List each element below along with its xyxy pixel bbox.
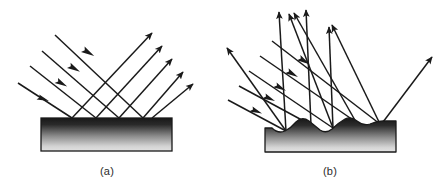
outgoing-ray	[119, 59, 172, 118]
reflection-diagram-svg: (a)	[0, 0, 448, 187]
reflection-figure: (a)	[0, 0, 448, 187]
outgoing-ray	[143, 72, 183, 118]
arrowhead-icon	[285, 68, 298, 77]
panel-b-group: (b)	[227, 10, 432, 177]
outgoing-ray	[72, 33, 152, 118]
panel-a-incoming-rays	[18, 35, 143, 118]
scattered-ray	[383, 57, 432, 122]
panel-a-group: (a)	[18, 33, 193, 177]
incoming-ray	[228, 100, 286, 131]
panel-a-caption: (a)	[100, 165, 114, 177]
arrowhead-icon	[67, 63, 80, 72]
incoming-ray	[249, 71, 333, 128]
smooth-surface-slab	[41, 118, 172, 151]
arrowhead-icon	[55, 78, 68, 87]
incoming-ray	[18, 83, 72, 118]
scattered-ray	[332, 25, 380, 124]
arrowhead-icon	[81, 47, 94, 56]
panel-a-outgoing-rays	[72, 33, 193, 118]
panel-b-caption: (b)	[323, 165, 337, 177]
scattered-ray	[279, 12, 286, 131]
arrowhead-icon	[36, 94, 49, 102]
incoming-ray	[30, 66, 96, 118]
